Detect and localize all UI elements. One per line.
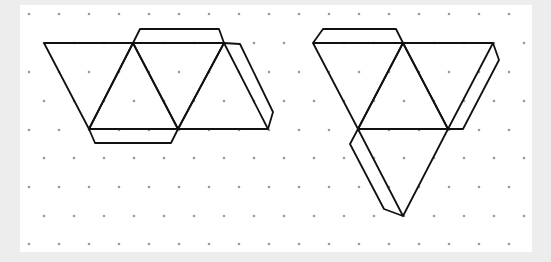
grid-dot	[313, 157, 316, 160]
grid-dot	[103, 215, 106, 218]
grid-dot	[343, 215, 346, 218]
triangle-face	[358, 43, 448, 129]
grid-dot	[298, 129, 301, 132]
grid-dot	[523, 215, 526, 218]
grid-dot	[373, 215, 376, 218]
grid-dot	[193, 157, 196, 160]
grid-dot	[283, 215, 286, 218]
grid-dot	[343, 157, 346, 160]
grid-dot	[478, 186, 481, 189]
grid-dot	[358, 243, 361, 246]
grid-dot	[88, 13, 91, 16]
grid-dot	[298, 13, 301, 16]
triangle-face	[133, 43, 224, 129]
glue-tab	[350, 129, 403, 216]
grid-dot	[118, 243, 121, 246]
grid-dot	[28, 129, 31, 132]
grid-dot	[28, 13, 31, 16]
grid-dot	[223, 215, 226, 218]
grid-dot	[28, 243, 31, 246]
triangle-face	[403, 43, 493, 129]
net-right	[313, 29, 499, 216]
grid-dot	[238, 13, 241, 16]
grid-dot	[178, 186, 181, 189]
grid-dot	[148, 13, 151, 16]
grid-dot	[148, 186, 151, 189]
grid-dot	[388, 13, 391, 16]
grid-dot	[208, 186, 211, 189]
diagram-canvas	[0, 0, 551, 262]
glue-tab	[313, 29, 403, 43]
triangle-face	[44, 43, 133, 129]
grid-dot	[298, 186, 301, 189]
grid-dot	[268, 243, 271, 246]
triangle-face	[358, 129, 448, 216]
grid-dot	[418, 13, 421, 16]
triangle-face	[178, 43, 268, 129]
grid-dot	[523, 42, 526, 45]
grid-dot	[253, 42, 256, 45]
grid-dot	[253, 157, 256, 160]
glue-tab	[133, 29, 224, 43]
grid-dot	[448, 13, 451, 16]
grid-dot	[508, 186, 511, 189]
grid-dot	[508, 129, 511, 132]
grid-dot	[433, 215, 436, 218]
grid-dot	[448, 71, 451, 74]
grid-dot	[88, 186, 91, 189]
grid-dot	[43, 100, 46, 103]
grid-dot	[328, 243, 331, 246]
grid-dot	[493, 100, 496, 103]
grid-dot	[328, 13, 331, 16]
grid-dot	[298, 243, 301, 246]
grid-dot	[208, 13, 211, 16]
grid-dot	[268, 13, 271, 16]
grid-dot	[163, 215, 166, 218]
grid-dot	[418, 243, 421, 246]
grid-dot	[478, 13, 481, 16]
grid-dot	[58, 13, 61, 16]
grid-dot	[328, 186, 331, 189]
grid-dot	[73, 215, 76, 218]
glue-tab	[89, 129, 178, 143]
grid-dot	[118, 186, 121, 189]
grid-dot	[73, 157, 76, 160]
grid-dot	[28, 71, 31, 74]
grid-dot	[523, 100, 526, 103]
net-left	[44, 29, 273, 143]
grid-dot	[313, 100, 316, 103]
grid-dot	[118, 13, 121, 16]
grid-dot	[268, 186, 271, 189]
grid-dot	[223, 100, 226, 103]
grid-dot	[463, 215, 466, 218]
grid-dot	[178, 71, 181, 74]
grid-dot	[88, 243, 91, 246]
grid-dot	[478, 243, 481, 246]
grid-dot	[268, 71, 271, 74]
grid-dot	[133, 215, 136, 218]
grid-dot	[403, 100, 406, 103]
grid-dot	[448, 186, 451, 189]
grid-dot	[238, 243, 241, 246]
grid-dot	[508, 71, 511, 74]
grid-dot	[133, 100, 136, 103]
grid-dot	[208, 243, 211, 246]
grid-dot	[358, 186, 361, 189]
grid-dot	[403, 157, 406, 160]
grid-dot	[193, 215, 196, 218]
grid-dot	[178, 243, 181, 246]
grid-dot	[178, 13, 181, 16]
grid-dot	[358, 71, 361, 74]
grid-dot	[43, 215, 46, 218]
grid-dot	[283, 100, 286, 103]
grid-dot	[523, 157, 526, 160]
grid-dot	[133, 157, 136, 160]
grid-dot	[28, 186, 31, 189]
grid-dot	[58, 186, 61, 189]
triangle-face	[313, 43, 403, 129]
grid-dot	[313, 215, 316, 218]
grid-dot	[58, 243, 61, 246]
grid-dot	[88, 71, 91, 74]
triangle-face	[89, 43, 178, 129]
grid-dot	[463, 157, 466, 160]
